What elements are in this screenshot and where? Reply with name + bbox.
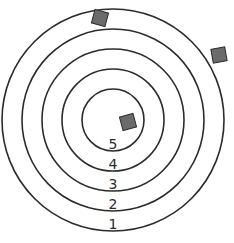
target-diagram: 12345 (0, 0, 234, 243)
marker-right-square-icon (211, 47, 227, 63)
ring-label-1: 1 (109, 216, 118, 232)
marker-top-square-icon (91, 9, 108, 26)
marker-center-square-icon (119, 113, 136, 130)
ring-label-3: 3 (109, 176, 118, 192)
ring-label-4: 4 (109, 156, 118, 172)
target-svg: 12345 (0, 0, 234, 243)
ring-label-2: 2 (109, 196, 118, 212)
ring-label-5: 5 (109, 136, 118, 152)
